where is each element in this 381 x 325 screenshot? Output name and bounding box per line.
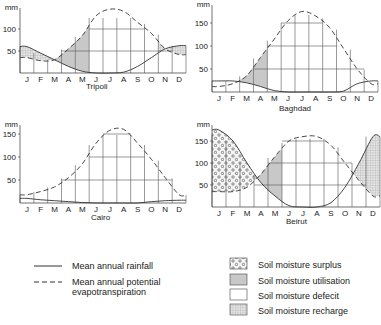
y-tick-label: 100: [195, 42, 209, 51]
x-tick-label: D: [370, 209, 376, 218]
x-tick-label: M: [272, 209, 279, 218]
panel-cairo: 50100150mmJFMAMJJASOND: [3, 120, 186, 214]
y-axis-unit: mm: [197, 0, 211, 9]
x-tick-label: N: [162, 205, 168, 214]
x-tick-label: A: [313, 94, 319, 103]
y-tick-label: 50: [7, 176, 16, 185]
legend-defecit-label: Soil moisture defecit: [258, 291, 339, 301]
panel-tripoli: 50100mmJFMAMJJASOND: [3, 3, 186, 84]
y-tick-label: 100: [3, 153, 17, 162]
x-tick-label: S: [327, 94, 332, 103]
x-tick-label: J: [217, 94, 221, 103]
y-tick-label: 150: [195, 137, 209, 146]
panel-beirut: 50100150mmJFMAMJJASOND: [195, 120, 380, 218]
x-tick-label: F: [38, 205, 43, 214]
y-tick-label: 50: [7, 47, 16, 56]
legend-rainfall-label: Mean annual rainfall: [72, 261, 153, 271]
y-tick-label: 50: [199, 65, 208, 74]
legend-utilisation-swatch-icon: [230, 274, 247, 285]
x-tick-label: S: [135, 205, 140, 214]
x-tick-label: O: [148, 205, 154, 214]
x-tick-label: F: [230, 94, 235, 103]
y-tick-label: 150: [3, 130, 17, 139]
y-axis-unit: mm: [197, 120, 211, 129]
x-tick-label: D: [368, 94, 374, 103]
x-tick-label: D: [176, 205, 182, 214]
x-tick-label: A: [258, 209, 264, 218]
y-axis-unit: mm: [5, 120, 19, 129]
panel-baghdad: 50100150mmJFMAMJJASOND: [195, 0, 378, 103]
x-tick-label: M: [51, 205, 58, 214]
legend-recharge-label: Soil moisture recharge: [258, 306, 348, 316]
legend-surplus-label: Soil moisture surplus: [258, 260, 342, 270]
x-tick-label: O: [148, 75, 154, 84]
panel-title-baghdad: Baghdad: [279, 104, 311, 114]
x-tick-label: A: [66, 75, 72, 84]
x-tick-label: O: [340, 94, 346, 103]
x-tick-label: M: [79, 205, 86, 214]
y-tick-label: 50: [199, 181, 208, 190]
y-axis-unit: mm: [5, 3, 19, 12]
y-tick-label: 100: [195, 159, 209, 168]
x-tick-label: M: [51, 75, 58, 84]
panel-title-beirut: Beirut: [286, 217, 307, 227]
x-tick-label: J: [217, 209, 221, 218]
legend-utilisation-label: Soil moisture utilisation: [258, 276, 350, 286]
x-tick-label: N: [354, 94, 360, 103]
legend-recharge-swatch-icon: [230, 304, 247, 315]
x-tick-label: A: [66, 205, 72, 214]
legend-pet-label-1: Mean annual potential: [72, 277, 161, 287]
legend-defecit-swatch-icon: [230, 289, 247, 300]
x-tick-label: A: [121, 205, 127, 214]
legend-pet-label-2: evapotranspiration: [72, 287, 146, 297]
x-tick-label: F: [38, 75, 43, 84]
x-tick-label: S: [328, 209, 333, 218]
x-tick-label: J: [25, 205, 29, 214]
x-tick-label: M: [271, 94, 278, 103]
x-tick-label: D: [176, 75, 182, 84]
x-tick-label: O: [342, 209, 348, 218]
x-tick-label: A: [121, 75, 127, 84]
x-tick-label: M: [79, 75, 86, 84]
x-tick-label: M: [243, 94, 250, 103]
x-tick-label: A: [314, 209, 320, 218]
x-tick-label: N: [356, 209, 362, 218]
legend-surplus-swatch-icon: [230, 258, 247, 269]
y-tick-label: 150: [195, 19, 209, 28]
x-tick-label: J: [108, 75, 112, 84]
panel-title-cairo: Cairo: [91, 213, 110, 223]
x-tick-label: F: [231, 209, 236, 218]
x-tick-label: N: [162, 75, 168, 84]
y-tick-label: 100: [3, 25, 17, 34]
x-tick-label: S: [135, 75, 140, 84]
panel-title-tripoli: Tripoli: [86, 82, 107, 92]
x-tick-label: M: [244, 209, 251, 218]
x-tick-label: A: [258, 94, 264, 103]
x-tick-label: J: [300, 94, 304, 103]
x-tick-label: J: [25, 75, 29, 84]
x-tick-label: J: [286, 94, 290, 103]
